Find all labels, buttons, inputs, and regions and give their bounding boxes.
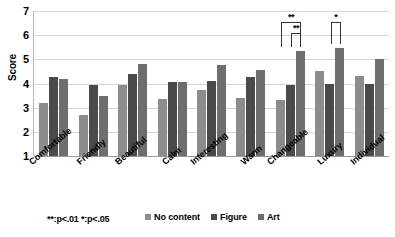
legend-item: No content bbox=[145, 212, 200, 222]
significance-marker: ** bbox=[288, 13, 294, 22]
legend-item: Figure bbox=[211, 212, 247, 222]
significance-bracket bbox=[291, 33, 301, 47]
bar bbox=[355, 76, 364, 156]
legend-swatch bbox=[145, 214, 151, 220]
significance-marker: ** bbox=[293, 24, 299, 33]
bar bbox=[59, 79, 68, 156]
bar bbox=[246, 77, 255, 156]
bar-group bbox=[113, 11, 152, 156]
bar bbox=[315, 71, 324, 156]
x-label-cell: Interesting bbox=[191, 157, 231, 207]
x-label-cell: Changeable bbox=[270, 157, 310, 207]
legend-label: Art bbox=[267, 212, 280, 222]
x-label-cell: Individual bbox=[350, 157, 390, 207]
bar-group bbox=[152, 11, 191, 156]
x-label-cell: Beautiful bbox=[112, 157, 152, 207]
bar bbox=[178, 82, 187, 156]
x-label-cell: Luxury bbox=[310, 157, 350, 207]
bar-group bbox=[73, 11, 112, 156]
y-tick-label: 4 bbox=[23, 78, 29, 89]
y-tick-label: 6 bbox=[23, 30, 29, 41]
x-label-cell: Friendly bbox=[73, 157, 113, 207]
bar-group bbox=[350, 11, 389, 156]
bar bbox=[158, 99, 167, 156]
bar bbox=[236, 98, 245, 156]
y-axis-title: Score bbox=[7, 38, 18, 98]
significance-bracket bbox=[331, 22, 341, 44]
bar-chart: Score 1234567 ***** ComfortableFriendlyB… bbox=[0, 0, 395, 237]
x-axis-labels: ComfortableFriendlyBeautifulCalmInterest… bbox=[33, 157, 389, 207]
bar-group bbox=[231, 11, 270, 156]
y-tick-label: 5 bbox=[23, 54, 29, 65]
y-tick-label: 3 bbox=[23, 102, 29, 113]
legend-label: Figure bbox=[220, 212, 247, 222]
y-tick-label: 7 bbox=[23, 6, 29, 17]
legend-label: No content bbox=[154, 212, 200, 222]
legend-swatch bbox=[258, 214, 264, 220]
bar bbox=[118, 85, 127, 156]
x-label-cell: Warm bbox=[231, 157, 271, 207]
y-tick-label: 2 bbox=[23, 126, 29, 137]
significance-marker: * bbox=[334, 13, 337, 22]
legend-swatch bbox=[211, 214, 217, 220]
plot-area: 1234567 ***** bbox=[33, 11, 389, 156]
chart-legend: No contentFigureArt bbox=[145, 212, 280, 222]
x-label-cell: Calm bbox=[152, 157, 192, 207]
significance-footnote: **:p<.01 *:p<.05 bbox=[47, 214, 109, 224]
legend-item: Art bbox=[258, 212, 280, 222]
x-label-cell: Comfortable bbox=[33, 157, 73, 207]
